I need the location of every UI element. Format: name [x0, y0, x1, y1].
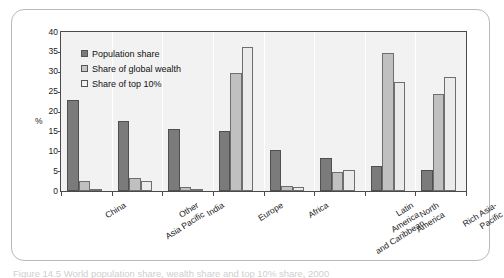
x-axis-tick-mark [415, 192, 416, 196]
bar [180, 187, 192, 191]
figure-caption: Figure 14.5 World population share, weal… [13, 268, 329, 278]
legend-swatch-empty [81, 80, 88, 87]
legend-item: Population share [81, 46, 216, 61]
bar [433, 94, 445, 191]
y-axis-tick-label: 20 [38, 107, 58, 116]
bar [270, 150, 282, 191]
bar [230, 73, 242, 191]
y-axis-tick-label: 15 [38, 127, 58, 136]
bar [168, 129, 180, 191]
bar [79, 181, 91, 191]
legend-swatch-filled [81, 50, 88, 57]
y-axis-unit-label: % [35, 116, 43, 126]
y-axis-tick-label: 35 [38, 47, 58, 56]
x-axis-category-label: China [104, 200, 128, 221]
x-axis-tick-mark [162, 192, 163, 196]
bar [332, 172, 344, 191]
legend-item-label: Share of global wealth [92, 64, 181, 74]
x-axis-tick-mark [112, 192, 113, 196]
y-axis-tick-label: 10 [38, 147, 58, 156]
chart-legend: Population shareShare of global wealthSh… [81, 46, 216, 91]
legend-item-label: Share of top 10% [92, 79, 162, 89]
x-axis-category-label-line: China [104, 200, 128, 221]
bar [242, 47, 254, 191]
bar [293, 187, 305, 191]
x-axis-category-label-line: Africa [306, 200, 330, 220]
group-separator [415, 32, 416, 191]
x-axis-category-label-line: India [205, 200, 226, 219]
legend-item: Share of top 10% [81, 76, 216, 91]
bar [219, 131, 231, 191]
bar [141, 181, 153, 191]
y-axis-tick-label: 25 [38, 87, 58, 96]
x-axis-category-label: Africa [306, 200, 330, 220]
bar [281, 186, 293, 191]
bar [90, 189, 102, 191]
bar [394, 82, 406, 191]
group-separator [264, 32, 265, 191]
group-separator [365, 32, 366, 191]
group-separator [314, 32, 315, 191]
bar [371, 166, 383, 191]
legend-item: Share of global wealth [81, 61, 216, 76]
x-axis-tick-mark [213, 192, 214, 196]
x-axis-tick-mark [365, 192, 366, 196]
y-axis-tick-label: 30 [38, 67, 58, 76]
x-axis-category-label: India [205, 200, 226, 219]
bar [118, 121, 130, 191]
x-axis-tick-mark [61, 192, 62, 196]
y-axis: 0510152025303540 [32, 31, 58, 192]
x-axis-tick-mark [466, 192, 467, 196]
bar [343, 170, 355, 191]
y-axis-tick-label: 40 [38, 28, 58, 37]
x-axis-category-label: Rich Asia-Pacific [461, 200, 504, 238]
x-axis-tick-mark [314, 192, 315, 196]
legend-swatch-light [81, 65, 88, 72]
x-axis-category-label-line: Europe [257, 200, 286, 223]
x-axis-tick-mark [264, 192, 265, 196]
bar [382, 53, 394, 191]
y-axis-tick-label: 5 [38, 167, 58, 176]
x-axis-category-label: OtherAsia Pacific [158, 200, 206, 241]
bar [129, 178, 141, 191]
bar [320, 158, 332, 191]
bar [191, 189, 203, 191]
legend-item-label: Population share [92, 49, 160, 59]
x-axis-category-label: Europe [257, 200, 286, 223]
bar [421, 170, 433, 191]
figure-card: 0510152025303540 % ChinaOtherAsia Pacifi… [11, 9, 490, 261]
bar [444, 77, 456, 191]
bar [67, 100, 79, 191]
y-axis-tick-label: 0 [38, 187, 58, 196]
